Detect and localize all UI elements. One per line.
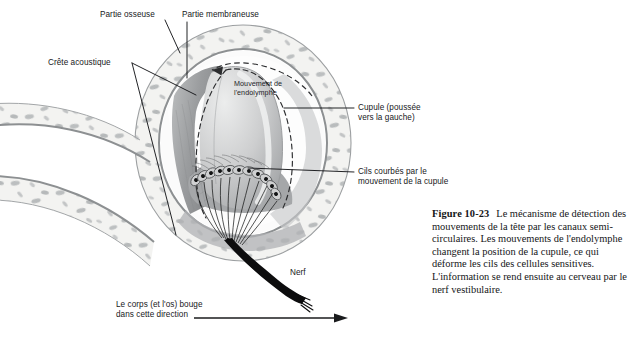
label-cils-courbes-line1: Cils courbés par le [358,167,448,177]
bone-canal-tail-lower [0,176,154,266]
figure-caption-text: Le mécanisme de détection des mouvements… [432,208,627,295]
label-partie-osseuse: Partie osseuse [100,10,155,20]
bone-canal-tail-upper [0,103,150,162]
label-body-direction-line2: dans cette direction [116,310,203,320]
body-direction-arrow [194,313,348,322]
figure-caption: Figure 10-23Le mécanisme de détection de… [432,208,632,296]
label-cils-courbes: Cils courbés par le mouvement de la cupu… [358,167,448,187]
label-body-direction-line1: Le corps (et l'os) bouge [116,300,203,310]
label-cupule-line1: Cupule (poussée [358,103,421,113]
label-crete-acoustique: Crête acoustique [48,58,111,68]
label-mouvement-endolymphe-line2: l'endolymphe [234,88,282,97]
leader-partie-osseuse [165,20,180,53]
label-cupule: Cupule (poussée vers la gauche) [358,103,421,123]
label-nerf: Nerf [290,268,306,278]
figure-caption-number: Figure 10-23 [432,208,489,219]
label-cils-courbes-line2: mouvement de la cupule [358,177,448,187]
label-partie-membraneuse: Partie membraneuse [182,10,259,20]
label-body-direction: Le corps (et l'os) bouge dans cette dire… [116,300,203,320]
label-mouvement-endolymphe: Mouvement de l'endolymphe [234,79,282,97]
figure-page: Partie osseuse Partie membraneuse Crête … [0,0,644,342]
label-cupule-line2: vers la gauche) [358,113,421,123]
label-mouvement-endolymphe-line1: Mouvement de [234,79,282,88]
